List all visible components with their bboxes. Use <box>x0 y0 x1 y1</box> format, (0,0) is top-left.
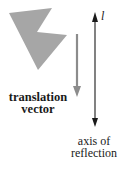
axis-of-reflection-line <box>92 12 98 127</box>
axis-of-reflection-label-line2: reflection <box>66 147 120 159</box>
shape-figure <box>9 8 67 70</box>
axis-label-l: l <box>101 9 104 24</box>
translation-vector-arrow <box>73 34 81 97</box>
translation-vector-label-line2: vector <box>2 103 74 115</box>
